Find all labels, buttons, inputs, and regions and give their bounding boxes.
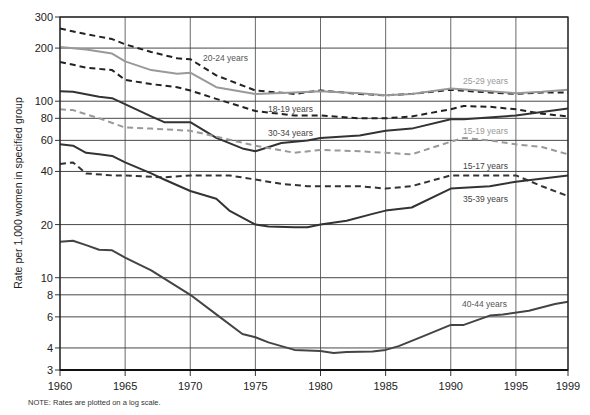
y-tick-label: 80: [41, 112, 53, 124]
series-label: 15-19 years: [463, 126, 508, 136]
y-tick-label: 4: [47, 342, 53, 354]
series-label: 35-39 years: [463, 194, 508, 204]
series-label: 30-34 years: [268, 128, 313, 138]
x-tick-label: 1999: [556, 380, 580, 392]
y-tick-label: 20: [41, 219, 53, 231]
y-tick-label: 300: [35, 11, 53, 23]
x-tick-label: 1990: [439, 380, 463, 392]
y-tick-label: 60: [41, 134, 53, 146]
series-label: 20-24 years: [203, 53, 248, 63]
x-tick-label: 1975: [243, 380, 267, 392]
log-scale-note: NOTE: Rates are plotted on a log scale.: [28, 398, 161, 407]
x-tick-label: 1985: [373, 380, 397, 392]
series-label: 25-29 years: [463, 76, 508, 86]
x-tick-label: 1970: [178, 380, 202, 392]
y-tick-label: 10: [41, 272, 53, 284]
y-tick-label: 6: [47, 311, 53, 323]
series-label: 40-44 years: [462, 299, 507, 309]
y-tick-label: 40: [41, 165, 53, 177]
y-tick-label: 100: [35, 95, 53, 107]
series-30-34-years: [60, 91, 568, 151]
series-40-44-years: [60, 241, 568, 353]
x-tick-label: 1980: [308, 380, 332, 392]
x-tick-label: 1995: [504, 380, 528, 392]
y-axis-label: Rate per 1,000 women in specified group: [12, 97, 24, 289]
x-tick-label: 1965: [113, 380, 137, 392]
series-25-29-years: [60, 47, 568, 95]
series-label: 15-17 years: [463, 161, 508, 171]
x-tick-label: 1960: [48, 380, 72, 392]
series-label: 18-19 years: [268, 104, 313, 114]
line-chart: 20-24 years25-29 years18-19 years30-34 y…: [0, 0, 590, 415]
y-tick-label: 200: [35, 42, 53, 54]
y-tick-label: 3: [47, 364, 53, 376]
y-tick-label: 8: [47, 289, 53, 301]
series-35-39-years: [60, 144, 568, 227]
